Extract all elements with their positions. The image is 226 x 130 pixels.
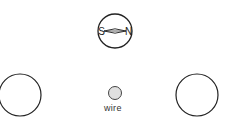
wire-label: wire [104, 103, 122, 113]
left-circle [0, 74, 41, 116]
compass: S N [98, 14, 132, 48]
wire-cross-section [109, 87, 122, 100]
compass-south-label: S [98, 26, 105, 37]
compass-north-label: N [125, 26, 132, 37]
right-circle [176, 74, 218, 116]
